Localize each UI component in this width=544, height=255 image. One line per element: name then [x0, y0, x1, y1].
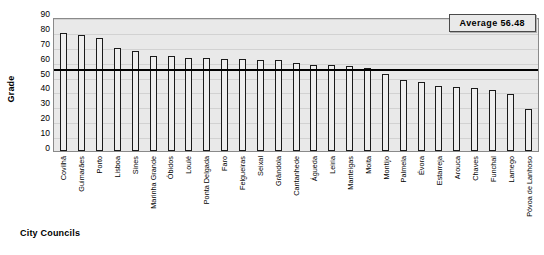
- bar-slot: [109, 19, 127, 151]
- x-axis-tick: Grândola: [275, 156, 282, 186]
- bar[interactable]: [310, 65, 317, 151]
- x-label-slot: Manteigas: [341, 154, 359, 242]
- plot-area: [53, 18, 539, 152]
- bar-slot: [394, 19, 412, 151]
- bar[interactable]: [114, 48, 121, 151]
- x-label-slot: Sines: [126, 154, 144, 242]
- bar[interactable]: [489, 90, 496, 151]
- bar[interactable]: [96, 38, 103, 151]
- bar-slot: [55, 19, 73, 151]
- x-axis-tick: Leiria: [328, 156, 335, 174]
- bar[interactable]: [203, 58, 210, 151]
- bar-slot: [162, 19, 180, 151]
- bar[interactable]: [221, 59, 228, 151]
- x-label-slot: Leiria: [323, 154, 341, 242]
- x-label-slot: Estarreja: [430, 154, 448, 242]
- average-annotation-box: Average 56.48: [449, 14, 536, 32]
- x-axis-tick: Palmela: [400, 156, 407, 182]
- bar[interactable]: [239, 59, 246, 151]
- average-line: [54, 69, 538, 71]
- x-axis-tick: Estarreja: [436, 156, 443, 185]
- y-axis-tick: 0: [20, 144, 50, 152]
- bar[interactable]: [418, 82, 425, 151]
- bar-slot: [73, 19, 91, 151]
- x-axis-tick: Évora: [418, 156, 425, 175]
- average-annotation-label: Average 56.48: [460, 18, 525, 28]
- bar[interactable]: [60, 33, 67, 151]
- bar[interactable]: [525, 109, 532, 151]
- x-axis-tick: Manteigas: [346, 156, 353, 190]
- bar-slot: [251, 19, 269, 151]
- bar-slot: [126, 19, 144, 151]
- x-axis-tick: Faro: [221, 156, 228, 171]
- y-axis-tick: 30: [20, 99, 50, 107]
- bar[interactable]: [364, 68, 371, 151]
- x-axis-tick: Ponta Delgada: [203, 156, 210, 204]
- bar[interactable]: [328, 65, 335, 151]
- y-axis-tick: 40: [20, 84, 50, 92]
- bar-slot: [269, 19, 287, 151]
- x-axis-title-label: City Councils: [20, 228, 80, 238]
- y-axis-tick: 70: [20, 40, 50, 48]
- bar[interactable]: [346, 66, 353, 151]
- bar-chart: Grade 9080706050403020100 Average 56.48 …: [0, 0, 544, 255]
- bar-slot: [341, 19, 359, 151]
- y-axis-title: Grade: [2, 54, 18, 124]
- x-axis-tick: Marinha Grande: [149, 156, 156, 209]
- bar-slot: [323, 19, 341, 151]
- x-label-slot: Póvoa de Lanhoso: [520, 154, 538, 242]
- x-axis-tick: Moita: [364, 156, 371, 174]
- bar[interactable]: [293, 63, 300, 151]
- bar[interactable]: [507, 94, 514, 151]
- bar[interactable]: [453, 87, 460, 151]
- x-label-slot: Loulé: [179, 154, 197, 242]
- x-axis-tick: Loulé: [185, 156, 192, 174]
- bar-series: [54, 19, 538, 151]
- bar-slot: [448, 19, 466, 151]
- bar[interactable]: [435, 86, 442, 152]
- bar[interactable]: [382, 74, 389, 151]
- bar[interactable]: [275, 60, 282, 151]
- bar[interactable]: [257, 60, 264, 151]
- bar[interactable]: [78, 35, 85, 151]
- x-label-slot: Cantanhede: [287, 154, 305, 242]
- y-axis-tick: 50: [20, 70, 50, 78]
- bar-slot: [287, 19, 305, 151]
- y-axis-title-label: Grade: [5, 75, 15, 102]
- x-axis-tick: Guimarães: [77, 156, 84, 192]
- bar-slot: [519, 19, 537, 151]
- x-axis-tick: Seixal: [257, 156, 264, 176]
- x-label-slot: Felgueiras: [233, 154, 251, 242]
- y-axis-tick: 80: [20, 25, 50, 33]
- y-axis-tick-labels: 9080706050403020100: [20, 14, 50, 154]
- x-axis-tick: Porto: [95, 156, 102, 173]
- bar-slot: [305, 19, 323, 151]
- x-axis-tick: Felgueiras: [239, 156, 246, 190]
- x-label-slot: Faro: [215, 154, 233, 242]
- x-label-slot: Seixal: [251, 154, 269, 242]
- bar-slot: [198, 19, 216, 151]
- x-label-slot: Montijo: [377, 154, 395, 242]
- bar[interactable]: [185, 58, 192, 151]
- x-label-slot: Ponta Delgada: [197, 154, 215, 242]
- x-label-slot: Funchal: [484, 154, 502, 242]
- x-label-slot: Arouca: [448, 154, 466, 242]
- bar-slot: [180, 19, 198, 151]
- bar-slot: [144, 19, 162, 151]
- bar[interactable]: [400, 80, 407, 151]
- bar-slot: [216, 19, 234, 151]
- x-label-slot: Porto: [90, 154, 108, 242]
- bar-slot: [376, 19, 394, 151]
- x-axis-tick: Cantanhede: [292, 156, 299, 196]
- x-label-slot: Palmela: [395, 154, 413, 242]
- x-axis-tick: Lisboa: [113, 156, 120, 178]
- bar-slot: [430, 19, 448, 151]
- bar[interactable]: [471, 88, 478, 151]
- x-axis-tick-labels: CovilhãGuimarãesPortoLisboaSinesMarinha …: [53, 154, 539, 242]
- x-axis-tick: Sines: [131, 156, 138, 174]
- bar-slot: [484, 19, 502, 151]
- bar-slot: [412, 19, 430, 151]
- x-label-slot: Águeda: [305, 154, 323, 242]
- bar[interactable]: [132, 51, 139, 151]
- x-axis-tick: Arouca: [454, 156, 461, 179]
